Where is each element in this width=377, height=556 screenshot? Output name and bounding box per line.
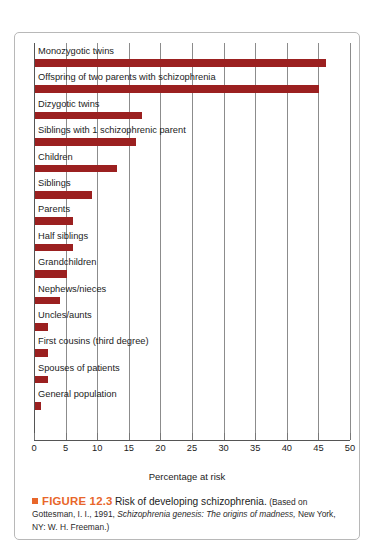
x-tick-label-15: 15 <box>124 443 134 453</box>
bar-label: Monozygotic twins <box>38 44 114 58</box>
bar <box>35 244 73 252</box>
bar <box>35 297 60 305</box>
bar-row: First cousins (third degree) <box>34 334 358 360</box>
x-tick-label-5: 5 <box>63 443 68 453</box>
x-axis-line <box>34 440 350 441</box>
x-tick-label-20: 20 <box>155 443 165 453</box>
bar-row: Parents <box>34 202 358 228</box>
x-tick-5 <box>66 433 67 440</box>
x-tick-45 <box>318 433 319 440</box>
x-axis-label: Percentage at risk <box>15 471 359 482</box>
x-tick-label-30: 30 <box>218 443 228 453</box>
bar <box>35 85 319 93</box>
figure-source-italic: Schizophrenia genesis: The origins of ma… <box>117 509 295 519</box>
x-tick-label-10: 10 <box>92 443 102 453</box>
figure-source-part-1: (Based <box>269 497 296 507</box>
bar <box>35 112 142 120</box>
bar-label: Uncles/aunts <box>38 308 92 322</box>
x-tick-0 <box>34 433 35 440</box>
bar <box>35 59 326 67</box>
bar-label: Half siblings <box>38 229 88 243</box>
x-tick-label-35: 35 <box>250 443 260 453</box>
bar-row: Dizygotic twins <box>34 97 358 123</box>
figure-card: Monozygotic twinsOffspring of two parent… <box>14 32 360 540</box>
x-tick-label-25: 25 <box>187 443 197 453</box>
bar <box>35 191 92 199</box>
bar-row: Siblings with 1 schizophrenic parent <box>34 123 358 149</box>
bar-row: Siblings <box>34 176 358 202</box>
x-tick-40 <box>287 433 288 440</box>
bar <box>35 138 136 146</box>
bar-label: Siblings with 1 schizophrenic parent <box>38 123 186 137</box>
bar-row: Nephews/nieces <box>34 282 358 308</box>
bar <box>35 323 48 331</box>
x-tick-25 <box>192 433 193 440</box>
bar-label: Children <box>38 150 73 164</box>
bar-label: General population <box>38 387 117 401</box>
bar-row: Spouses of patients <box>34 361 358 387</box>
bar <box>35 165 117 173</box>
x-tick-label-45: 45 <box>313 443 323 453</box>
bar <box>35 402 41 410</box>
bar-row: Grandchildren <box>34 255 358 281</box>
figure-marker-icon <box>32 498 38 504</box>
bar-row: Uncles/aunts <box>34 308 358 334</box>
bar-row: Half siblings <box>34 229 358 255</box>
bar <box>35 376 48 384</box>
bar <box>35 270 67 278</box>
bar-label: Dizygotic twins <box>38 97 99 111</box>
x-tick-35 <box>255 433 256 440</box>
bar-row: Children <box>34 150 358 176</box>
x-tick-20 <box>160 433 161 440</box>
figure-number: FIGURE 12.3 <box>42 495 113 507</box>
bar <box>35 217 73 225</box>
bar-label: First cousins (third degree) <box>38 334 149 348</box>
bar-label: Siblings <box>38 176 71 190</box>
bar-label: Parents <box>38 202 70 216</box>
x-tick-15 <box>129 433 130 440</box>
x-tick-label-40: 40 <box>282 443 292 453</box>
bar-row: Offspring of two parents with schizophre… <box>34 70 358 96</box>
x-tick-50 <box>350 433 351 440</box>
bar-label: Offspring of two parents with schizophre… <box>38 70 216 84</box>
bar-row: General population <box>34 387 358 413</box>
x-tick-label-0: 0 <box>31 443 36 453</box>
figure-caption: FIGURE 12.3 Risk of developing schizophr… <box>32 495 347 533</box>
bar-label: Grandchildren <box>38 255 96 269</box>
chart-plot-area: Monozygotic twinsOffspring of two parent… <box>34 43 350 440</box>
figure-title: Risk of developing schizophrenia. <box>115 496 267 507</box>
x-tick-label-50: 50 <box>345 443 355 453</box>
x-tick-10 <box>97 433 98 440</box>
bar <box>35 349 48 357</box>
x-axis: 05101520253035404550 <box>34 440 350 474</box>
bar-label: Spouses of patients <box>38 361 120 375</box>
x-tick-30 <box>224 433 225 440</box>
bar-label: Nephews/nieces <box>38 282 106 296</box>
bar-row: Monozygotic twins <box>34 44 358 70</box>
